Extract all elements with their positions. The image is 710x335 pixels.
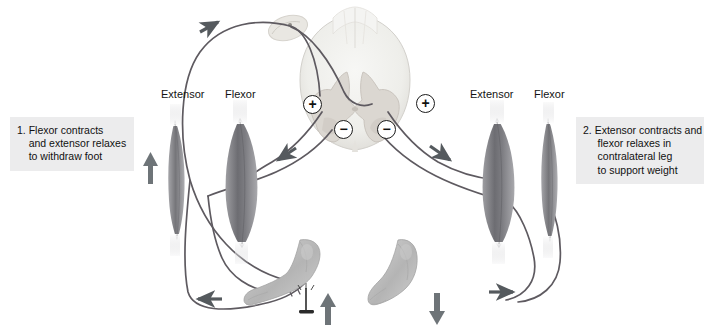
caption-step-1: 1. Flexor contracts and extensor relaxes… (10, 117, 134, 171)
right-extensor-muscle (483, 100, 515, 264)
right-foot-illustration (368, 240, 417, 305)
excitatory-synapse-plus-right: + (416, 94, 435, 113)
sensory-afferent-arrow (200, 22, 218, 32)
crossed-extensor-reflex-figure: 1. Flexor contracts and extensor relaxes… (0, 0, 710, 335)
state-arrows (143, 152, 445, 325)
inhibitory-synapse-minus-right: − (377, 120, 396, 139)
label-left-flexor: Flexor (225, 88, 256, 100)
left-motor-descending-arrow (278, 148, 296, 160)
left-motor-efferent-flexor (246, 112, 322, 184)
label-right-flexor: Flexor (534, 88, 565, 100)
caption-step-2: 2. Extensor contracts and flexor relaxes… (576, 117, 704, 184)
left-foot-illustration (244, 240, 320, 306)
right-motor-efferent-extensor (388, 112, 496, 180)
left-flexor-muscle (226, 100, 258, 264)
label-right-extensor: Extensor (470, 88, 513, 100)
left-foot-lift-arrow (320, 293, 336, 325)
dorsal-root-ganglion (265, 11, 310, 45)
right-foot-press-arrow (429, 293, 445, 325)
right-flexor-muscle (541, 102, 557, 258)
left-extensor-relax-arrow (143, 152, 158, 184)
excitatory-synapse-plus-left: + (303, 95, 322, 114)
inhibitory-synapse-minus-left: − (334, 120, 353, 139)
label-left-extensor: Extensor (161, 88, 204, 100)
